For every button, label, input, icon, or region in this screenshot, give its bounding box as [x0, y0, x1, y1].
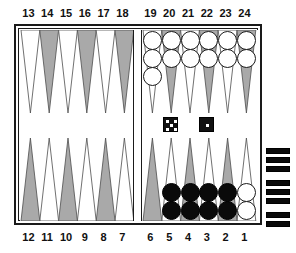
point-label-10: 10 — [57, 230, 75, 244]
point-label-9: 9 — [76, 230, 94, 244]
point-label-20: 20 — [160, 6, 178, 20]
point-label-18: 18 — [113, 6, 131, 20]
checker-white-point-20[interactable] — [162, 49, 181, 68]
die-2-value-1[interactable] — [199, 117, 214, 132]
point-label-21: 21 — [179, 6, 197, 20]
checker-black-point-2[interactable] — [218, 183, 237, 202]
point-label-1: 1 — [235, 230, 253, 244]
point-label-6: 6 — [141, 230, 159, 244]
top-point-labels: 131415161718192021222324 — [0, 6, 296, 20]
borne-off-bar-4 — [266, 180, 290, 186]
point-label-15: 15 — [57, 6, 75, 20]
point-label-23: 23 — [217, 6, 235, 20]
checker-black-point-4[interactable] — [181, 201, 200, 220]
point-label-16: 16 — [76, 6, 94, 20]
die-pip — [174, 128, 177, 131]
point-label-12: 12 — [19, 230, 37, 244]
borne-off-bar-1 — [266, 148, 290, 154]
point-label-5: 5 — [160, 230, 178, 244]
borne-off-bar-6 — [266, 198, 290, 204]
checker-white-point-21[interactable] — [181, 31, 200, 50]
point-label-19: 19 — [141, 6, 159, 20]
point-label-3: 3 — [198, 230, 216, 244]
die-1-value-5[interactable] — [163, 117, 178, 132]
checker-black-point-5[interactable] — [162, 183, 181, 202]
board-inner-border — [18, 28, 258, 221]
checker-white-point-1[interactable] — [237, 183, 256, 202]
borne-off-bar-7 — [266, 212, 290, 218]
checker-white-point-24[interactable] — [237, 31, 256, 50]
die-pip — [170, 124, 173, 127]
checker-white-point-1[interactable] — [237, 201, 256, 220]
point-label-8: 8 — [95, 230, 113, 244]
point-label-4: 4 — [179, 230, 197, 244]
checker-white-point-19[interactable] — [143, 49, 162, 68]
point-label-24: 24 — [235, 6, 253, 20]
checker-white-point-20[interactable] — [162, 31, 181, 50]
board-frame — [14, 24, 262, 225]
play-area — [20, 30, 258, 221]
checker-white-point-21[interactable] — [181, 49, 200, 68]
checker-white-point-23[interactable] — [218, 31, 237, 50]
borne-off-tray[interactable] — [266, 148, 292, 228]
die-pip — [166, 128, 169, 131]
checker-white-point-23[interactable] — [218, 49, 237, 68]
backgammon-screenshot: 131415161718192021222324 121110987654321 — [0, 0, 296, 253]
checkers-layer — [20, 30, 258, 221]
checker-black-point-5[interactable] — [162, 201, 181, 220]
checker-white-point-19[interactable] — [143, 67, 162, 86]
borne-off-bar-5 — [266, 189, 290, 195]
checker-black-point-3[interactable] — [199, 201, 218, 220]
checker-white-point-19[interactable] — [143, 31, 162, 50]
checker-white-point-22[interactable] — [199, 31, 218, 50]
checker-black-point-3[interactable] — [199, 183, 218, 202]
point-label-14: 14 — [38, 6, 56, 20]
bottom-point-labels: 121110987654321 — [0, 230, 296, 244]
die-pip — [174, 120, 177, 123]
checker-black-point-2[interactable] — [218, 201, 237, 220]
borne-off-bar-2 — [266, 157, 290, 163]
checker-white-point-22[interactable] — [199, 49, 218, 68]
checker-black-point-4[interactable] — [181, 183, 200, 202]
die-pip — [166, 120, 169, 123]
borne-off-bar-3 — [266, 166, 290, 172]
point-label-22: 22 — [198, 6, 216, 20]
borne-off-bar-8 — [266, 221, 290, 227]
point-label-7: 7 — [113, 230, 131, 244]
checker-white-point-24[interactable] — [237, 49, 256, 68]
point-label-2: 2 — [217, 230, 235, 244]
die-pip — [206, 124, 209, 127]
point-label-17: 17 — [95, 6, 113, 20]
point-label-13: 13 — [19, 6, 37, 20]
point-label-11: 11 — [38, 230, 56, 244]
